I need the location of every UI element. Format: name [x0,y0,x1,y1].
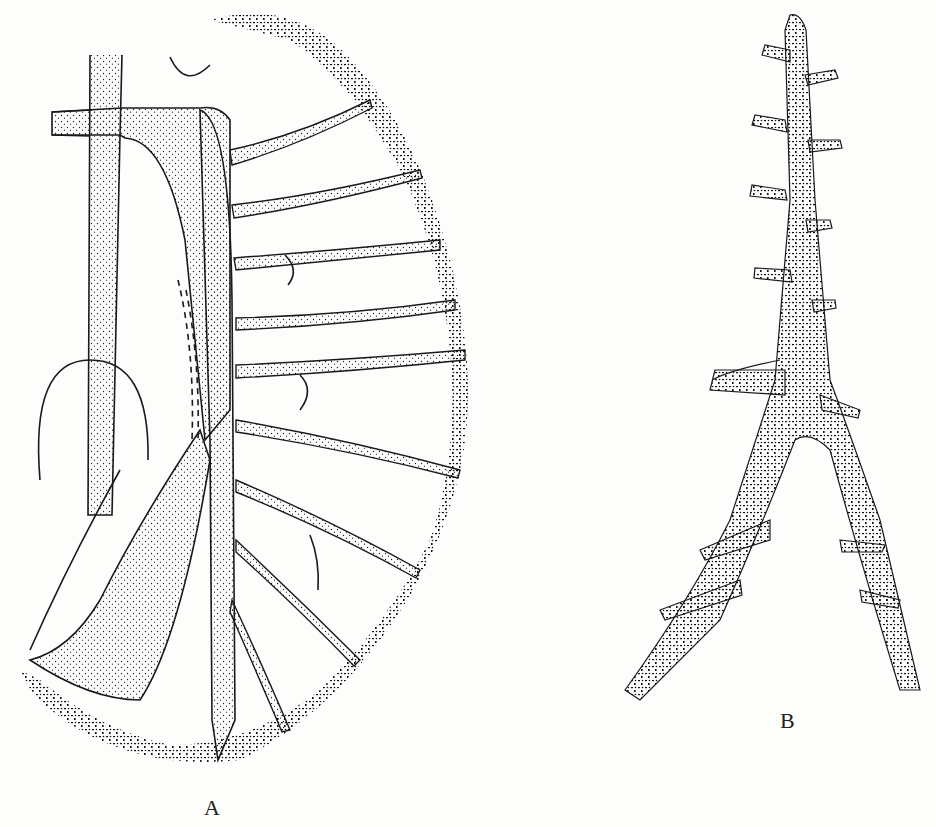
panel-a-drawing [20,14,470,765]
panel-b-drawing [625,15,920,700]
panel-label-b: B [780,708,795,734]
illustration-canvas [0,0,936,827]
panel-label-a: A [204,795,220,821]
